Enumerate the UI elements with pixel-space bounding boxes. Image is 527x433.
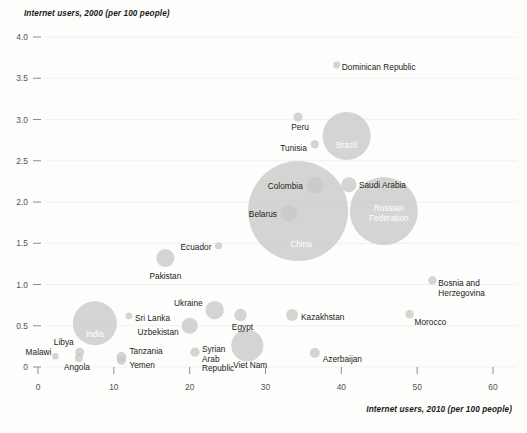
bubble-label-viet-nam: Viet Nam [233,360,267,370]
y-tick-label-3.5: 3.5 [16,73,28,83]
bubble-yemen[interactable] [117,356,126,365]
bubble-bosnia-and-herzegovina[interactable] [428,276,436,284]
bubble-morocco[interactable] [405,310,413,318]
y-tick-label-1.0: 1.0 [16,280,28,290]
bubble-colombia[interactable] [306,177,323,194]
plot-area: 00.51.01.52.02.53.03.54.00102030405060 M… [0,0,527,433]
bubble-label-tunisia: Tunisia [280,143,307,153]
bubble-tunisia[interactable] [311,140,319,148]
bubble-brazil[interactable] [323,112,371,160]
bubble-belarus[interactable] [281,205,297,221]
bubble-uzbekistan[interactable] [182,318,198,334]
y-axis-title: Internet users, 2000 (per 100 people) [24,9,170,18]
bubble-label-malawi: Malawi [26,347,52,357]
bubble-label-russian-federation: RussianFederation [369,203,409,223]
bubble-label-libya: Libya [54,337,74,347]
bubble-ecuador[interactable] [215,242,222,249]
bubble-dominican-republic[interactable] [333,61,340,68]
bubble-label-ukraine: Ukraine [174,298,203,308]
y-tick-label-0: 0 [23,362,28,372]
x-tick-label-30: 30 [261,382,271,392]
bubble-label-india: India [86,329,104,339]
x-tick-label-60: 60 [488,382,498,392]
bubble-label-belarus: Belarus [249,209,277,219]
bubble-peru[interactable] [294,112,303,121]
bubble-malawi[interactable] [52,353,58,359]
bubble-chart: 00.51.01.52.02.53.03.54.00102030405060 M… [0,0,527,433]
bubble-label-azerbaijan: Azerbaijan [323,354,363,364]
bubble-azerbaijan[interactable] [310,348,320,358]
bubble-label-bosnia-and-herzegovina: Bosnia andHerzegovina [438,278,485,298]
x-tick-label-40: 40 [337,382,347,392]
bubble-label-brazil: Brazil [336,140,357,150]
bubble-label-kazakhstan: Kazakhstan [301,312,345,322]
bubble-ukraine[interactable] [205,301,223,319]
bubble-kazakhstan[interactable] [286,309,298,321]
bubble-label-ecuador: Ecuador [181,242,212,252]
bubble-viet-nam[interactable] [231,330,263,362]
bubble-label-pakistan: Pakistan [149,271,181,281]
bubble-egypt[interactable] [234,309,246,321]
bubble-label-tanzania: Tanzania [129,346,163,356]
y-tick-label-2.0: 2.0 [16,197,28,207]
bubble-label-morocco: Morocco [415,317,447,327]
bubble-label-peru: Peru [291,122,309,132]
x-tick-label-10: 10 [109,382,119,392]
bubble-sri-lanka[interactable] [126,312,133,319]
x-tick-label-0: 0 [36,382,41,392]
bubble-saudi-arabia[interactable] [341,177,356,192]
y-tick-label-2.5: 2.5 [16,156,28,166]
bubble-pakistan[interactable] [156,249,174,267]
bubble-label-sri-lanka: Sri Lanka [135,313,170,323]
bubble-label-egypt: Egypt [232,322,254,332]
bubble-label-china: China [290,239,312,249]
x-tick-label-20: 20 [185,382,195,392]
bubble-label-syrian-arab-republic: SyrianArabRepublic [202,344,234,373]
bubble-label-colombia: Colombia [268,181,303,191]
bubble-label-uzbekistan: Uzbekistan [138,327,179,337]
bubble-label-angola: Angola [64,362,90,372]
x-axis-title: Internet users, 2010 (per 100 people) [366,405,512,414]
bubble-label-yemen: Yemen [129,360,155,370]
bubble-angola[interactable] [75,354,83,362]
y-tick-label-0.5: 0.5 [16,321,28,331]
x-tick-label-50: 50 [413,382,423,392]
y-tick-label-3.0: 3.0 [16,115,28,125]
bubble-syrian-arab-republic[interactable] [190,348,199,357]
bubble-label-dominican-republic: Dominican Republic [342,62,416,72]
y-tick-label-1.5: 1.5 [16,238,28,248]
bubble-label-saudi-arabia: Saudi Arabia [359,180,406,190]
y-tick-label-4.0: 4.0 [16,32,28,42]
